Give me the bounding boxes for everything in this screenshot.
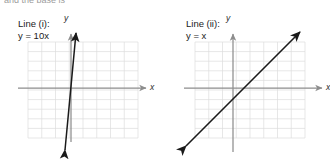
graph-svg-line-ii [164,0,329,161]
graph-panel-line-ii: Line (ii): y = x y x [164,0,329,161]
graph-svg-line-i [0,0,165,161]
grid-line-i [28,42,138,138]
grid-line-ii [195,42,305,138]
graph-panel-line-i: Line (i): y = 10x y x [0,0,165,161]
plotted-line-ii [186,32,300,146]
